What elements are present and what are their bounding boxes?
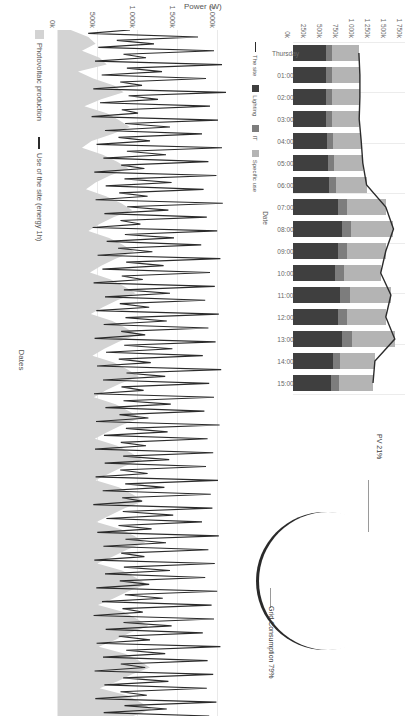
y-tick-label: 0k [48,20,57,28]
y-tick-label: 500k [316,24,323,38]
x-tick-label: 11:00 [278,292,294,299]
x-tick-label: 04:00 [277,138,293,145]
dashboard-page: Power (W) 0k500k1 000k1 500k2 000k Photo… [0,0,411,720]
pie-label-pv: PV 21% [376,434,383,459]
bars-plot-area [293,42,405,394]
pie-disc[interactable] [259,512,397,650]
legend-label: The site [253,55,259,76]
timeseries-svg [58,30,234,716]
timeseries-x-axis-label: Dates [17,0,26,720]
x-tick-label: 06:00 [277,182,293,189]
x-tick-label: 07:00 [277,204,293,211]
box-swatch-icon [252,85,259,92]
timeseries-y-ticks: 0k500k1 000k1 500k2 000k [58,0,234,30]
x-tick-label: Thursday [272,50,299,57]
x-tick-label: 14:00 [277,358,293,365]
line-swatch-icon [255,42,256,52]
x-tick-label: 15:00 [277,380,293,387]
legend-item-specific-use[interactable]: Specific use [252,150,259,192]
bars-legend: The site Lighting IT Specific use [252,42,259,192]
legend-label: Photovoltaic production [35,43,44,121]
x-tick-label: 03:00 [277,116,293,123]
stacked-bars-panel: 0k250k500k750k1 000k1 250k1 500k1 750k T… [240,0,411,420]
bars-x-axis-label: Date [262,42,269,394]
x-tick-label: 01:00 [277,72,293,79]
x-tick-label: 05:00 [277,160,293,167]
y-tick-label: 1 000k [348,18,355,38]
y-tick-label: 0k [284,31,291,38]
bars-y-ticks: 0k250k500k750k1 000k1 250k1 500k1 750k [293,0,405,40]
timeseries-legend: Photovoltaic production Use of the site … [35,30,44,241]
stacked-bar-chart: 0k250k500k750k1 000k1 250k1 500k1 750k T… [240,0,411,420]
y-tick-label: 1 500k [380,18,387,38]
timeseries-chart: Power (W) 0k500k1 000k1 500k2 000k Photo… [0,0,240,720]
y-tick-label: 250k [300,24,307,38]
x-tick-label: 09:00 [277,248,293,255]
legend-label: Lighting [253,95,259,116]
legend-item-lighting[interactable]: Lighting [252,85,259,116]
bars-x-ticks: Thursday01:0002:0003:0004:0005:0006:0007… [269,42,291,394]
pie-chart: PV 21% Grid Consumption 79% [240,420,411,720]
y-tick-label: 750k [332,24,339,38]
y-tick-label: 2 000k [208,5,217,28]
legend-item-it[interactable]: IT [252,125,259,140]
pie-label-grid-consumption: Grid Consumption 79% [268,606,275,678]
legend-item-use-of-the-site[interactable]: Use of the site (energy 1h) [35,137,44,241]
y-tick-label: 1 000k [128,5,137,28]
x-tick-label: 02:00 [277,94,293,101]
x-tick-label: 10:00 [277,270,293,277]
timeseries-panel: Power (W) 0k500k1 000k1 500k2 000k Photo… [0,0,240,720]
bars-line-overlay [293,42,405,394]
y-tick-label: 1 750k [396,18,403,38]
box-swatch-icon [252,125,259,132]
box-swatch-icon [252,150,259,157]
legend-label: Use of the site (energy 1h) [35,153,44,241]
legend-label: Specific use [253,160,259,192]
pie-panel: PV 21% Grid Consumption 79% [240,420,411,720]
line-swatch-icon [39,137,41,149]
y-tick-label: 1 500k [168,5,177,28]
area-swatch-icon [35,30,44,39]
x-tick-label: 13:00 [277,336,293,343]
y-tick-label: 500k [88,12,97,28]
y-tick-label: 1 250k [364,18,371,38]
legend-label: IT [253,135,259,140]
x-tick-label: 08:00 [277,226,293,233]
timeseries-plot-area [58,30,234,716]
x-tick-label: 12:00 [277,314,293,321]
legend-item-photovoltaic-production[interactable]: Photovoltaic production [35,30,44,121]
legend-item-the-site[interactable]: The site [253,42,259,76]
